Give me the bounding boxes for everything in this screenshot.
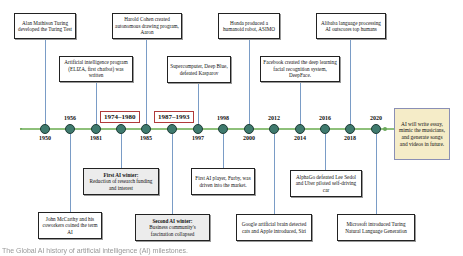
timeline-node-2018: [345, 124, 355, 134]
event-text: Harold Cohen created autonomous drawing …: [115, 16, 179, 35]
event-text: AlphaGo defeated Lee Sedol and Uber pilo…: [293, 174, 359, 193]
figure-caption: The Global AI history of artificial inte…: [2, 247, 188, 254]
event-box-furby: First AI player, Furby, was driven into …: [191, 168, 255, 195]
year-label: 1997: [186, 135, 210, 141]
event-box-alibaba: Alibaba language processing AI outscores…: [316, 13, 386, 39]
connector-1981: [96, 82, 97, 125]
timeline-node-2020: [371, 124, 381, 134]
event-box-second-ai-winter: Second AI winter: Business community's f…: [135, 214, 210, 241]
event-box-first-ai-winter: First AI winter: Reduction of research f…: [83, 168, 159, 195]
event-box-eliza: Artificial intelligence program (ELIZA, …: [59, 56, 133, 82]
timeline-node-2012: [269, 124, 279, 134]
event-text: Honda produced a humanoid robot, ASIMO: [221, 20, 277, 33]
connector-1956: [70, 134, 71, 212]
event-box-deepface: Facebook created the deep learning facia…: [260, 56, 340, 82]
future-text: AI will write essay, mimic the musicians…: [397, 121, 447, 147]
year-label: 2014: [288, 135, 312, 141]
event-box-asimo: Honda produced a humanoid robot, ASIMO: [218, 13, 280, 39]
event-box-turing-test: Alan Mathison Turing developed the Turin…: [14, 13, 76, 39]
year-label: 1998: [211, 115, 235, 121]
timeline-node-2016: [320, 124, 330, 134]
period-label-second-winter: 1987–1993: [154, 111, 194, 123]
event-text: Supercomputer, Deep Blue, defeated Kaspa…: [170, 63, 228, 76]
future-prediction-box: AI will write essay, mimic the musicians…: [394, 108, 450, 160]
event-text: Microsoft introduced Turing Natural Lang…: [340, 221, 412, 234]
event-text: Facebook created the deep learning facia…: [263, 59, 337, 78]
year-label: 1950: [33, 135, 57, 141]
timeline-node-second-winter: [167, 124, 177, 134]
connector-1998: [223, 134, 224, 168]
event-text: Alibaba language processing AI outscores…: [319, 20, 383, 33]
connector-2012: [274, 134, 275, 214]
year-label: 1956: [58, 115, 82, 121]
connector-2016: [325, 134, 326, 170]
connector-1985: [146, 39, 147, 125]
timeline-node-1998: [218, 124, 228, 134]
event-box-microsoft-tnlg: Microsoft introduced Turing Natural Lang…: [337, 214, 415, 241]
timeline-start-marker: •: [20, 126, 30, 132]
timeline-node-1956: [65, 124, 75, 134]
year-label: 2018: [338, 135, 362, 141]
year-label: 1981: [84, 135, 108, 141]
year-label: 2020: [364, 115, 388, 121]
event-box-deep-blue: Supercomputer, Deep Blue, defeated Kaspa…: [167, 56, 231, 83]
year-label: 2000: [237, 135, 261, 141]
year-label: 1985: [134, 135, 158, 141]
period-label-first-winter: 1974–1980: [100, 111, 140, 123]
timeline-node-2000: [244, 124, 254, 134]
year-label: 2012: [262, 115, 286, 121]
connector-2014: [300, 82, 301, 125]
event-text: John McCarthy and his coworkers coined t…: [41, 216, 99, 235]
connector-2020: [376, 134, 377, 214]
connector-2000: [249, 39, 250, 125]
timeline-node-first-winter: [116, 124, 126, 134]
event-text: Business community's fascination collaps…: [149, 224, 195, 236]
timeline-node-1950: [40, 124, 50, 134]
timeline-node-1985: [141, 124, 151, 134]
connector-2018: [350, 39, 351, 125]
timeline-node-2014: [295, 124, 305, 134]
event-box-aaron: Harold Cohen created autonomous drawing …: [112, 13, 182, 39]
event-text: Google artificial brain detected cats an…: [239, 221, 309, 234]
event-box-alphago: AlphaGo defeated Lee Sedol and Uber pilo…: [290, 170, 362, 197]
event-text: Artificial intelligence program (ELIZA, …: [62, 59, 130, 78]
connector-first-winter: [121, 134, 122, 168]
timeline-node-1997: [193, 124, 203, 134]
connector-1997: [198, 83, 199, 125]
event-text: First AI player, Furby, was driven into …: [194, 175, 252, 188]
year-label: 2016: [313, 115, 337, 121]
timeline-node-1981: [91, 124, 101, 134]
connector-second-winter: [172, 134, 173, 214]
event-text: Alan Mathison Turing developed the Turin…: [17, 20, 73, 33]
timeline-arrow-dot: [383, 127, 387, 131]
event-text: Reduction of research funding and intere…: [90, 178, 153, 190]
connector-1950: [45, 39, 46, 125]
event-box-google-siri: Google artificial brain detected cats an…: [236, 214, 312, 241]
event-box-mccarthy: John McCarthy and his coworkers coined t…: [38, 212, 102, 239]
